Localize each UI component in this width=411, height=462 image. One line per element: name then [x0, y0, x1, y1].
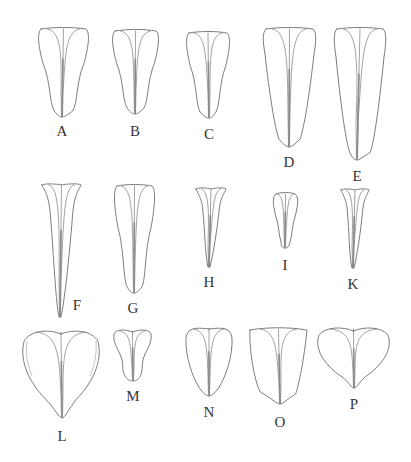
- petal-vein-right: [210, 329, 225, 395]
- petal-plate: ABCDEFGHIKLMNOP: [0, 0, 411, 462]
- petal-f: F: [42, 184, 81, 317]
- petal-label-k: K: [348, 276, 359, 292]
- petal-label-d: D: [284, 154, 295, 170]
- petal-label-c: C: [204, 126, 214, 142]
- petal-vein-right: [281, 329, 297, 403]
- petal-midrib: [208, 62, 209, 117]
- petal-vein-left: [120, 31, 134, 113]
- petal-vein-right: [63, 332, 86, 417]
- petal-vein-left: [36, 332, 61, 417]
- petal-vein-right: [135, 186, 148, 292]
- petal-midrib: [209, 216, 210, 266]
- petal-label-e: E: [352, 168, 361, 184]
- petal-vein-left: [273, 29, 289, 146]
- petal-vein-right: [210, 189, 221, 266]
- petal-vein-right: [134, 331, 145, 380]
- petal-label-i: I: [283, 257, 288, 273]
- petal-vein-left: [120, 331, 132, 380]
- petal-vein-left: [278, 194, 285, 247]
- petal-label-m: M: [126, 388, 139, 404]
- petal-vein-right: [286, 194, 294, 247]
- petal-b: B: [113, 30, 159, 140]
- petal-vein-left: [260, 329, 279, 403]
- petal-label-p: P: [350, 396, 358, 412]
- petal-layer: ABCDEFGHIKLMNOP: [23, 28, 390, 445]
- petal-vein-right: [355, 329, 377, 387]
- petal-midrib: [61, 361, 62, 417]
- petal-d: D: [263, 28, 316, 171]
- petal-midrib: [62, 59, 63, 116]
- petal-vein-left: [194, 33, 209, 117]
- petal-vein-left: [121, 186, 133, 292]
- petal-vein-left: [194, 329, 209, 395]
- petal-vein-right: [290, 29, 307, 146]
- petal-label-h: H: [204, 274, 215, 290]
- petal-midrib: [353, 217, 354, 267]
- petal-vein-right: [354, 190, 364, 267]
- petal-m: M: [114, 330, 151, 404]
- petal-p: P: [318, 328, 390, 412]
- petal-k: K: [341, 189, 369, 292]
- petal-label-o: O: [275, 414, 286, 430]
- petal-vein-left: [201, 189, 208, 266]
- petal-label-a: A: [57, 123, 68, 139]
- petal-i: I: [273, 193, 297, 274]
- petal-midrib: [357, 74, 359, 159]
- petal-midrib: [279, 355, 280, 403]
- petal-h: H: [196, 188, 226, 290]
- petal-vein-left: [49, 185, 59, 316]
- petal-label-b: B: [130, 123, 140, 139]
- petal-label-l: L: [57, 428, 66, 444]
- petal-vein-left: [343, 29, 357, 159]
- petal-o: O: [250, 328, 307, 430]
- petal-a: A: [39, 28, 89, 140]
- petal-l: L: [23, 331, 99, 444]
- petal-n: N: [186, 328, 232, 420]
- petal-vein-left: [47, 29, 61, 116]
- petal-label-f: F: [73, 297, 81, 313]
- petal-shading: [26, 341, 32, 376]
- petal-midrib: [60, 231, 61, 316]
- petal-illustration: ABCDEFGHIKLMNOP: [0, 0, 411, 462]
- petal-e: E: [334, 28, 386, 185]
- petal-vein-left: [346, 190, 352, 267]
- petal-vein-right: [210, 33, 223, 117]
- petal-label-n: N: [204, 404, 215, 420]
- petal-g: G: [114, 185, 154, 317]
- petal-label-g: G: [128, 300, 139, 316]
- petal-vein-right: [136, 31, 151, 113]
- petal-vein-right: [63, 29, 80, 116]
- petal-c: C: [186, 32, 229, 143]
- petal-vein-left: [330, 329, 353, 387]
